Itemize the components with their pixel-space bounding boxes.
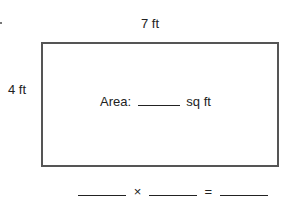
product-blank[interactable] [220, 195, 268, 196]
area-unit: sq ft [186, 94, 211, 109]
equals-symbol: = [204, 184, 212, 199]
area-blank[interactable] [138, 105, 180, 106]
stray-mark [0, 22, 2, 24]
factor-blank-2[interactable] [149, 195, 197, 196]
height-label: 4 ft [8, 82, 26, 97]
times-symbol: × [134, 184, 142, 199]
area-statement: Area: sq ft [100, 94, 211, 109]
width-label: 7 ft [141, 16, 159, 31]
factor-blank-1[interactable] [78, 195, 126, 196]
equation: × = [78, 184, 268, 199]
area-prefix: Area: [100, 94, 131, 109]
